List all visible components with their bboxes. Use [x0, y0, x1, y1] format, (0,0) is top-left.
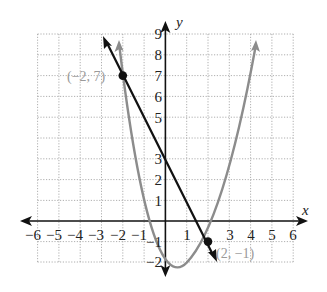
point-neg2-7: [119, 71, 128, 80]
svg-text:6: 6: [155, 89, 163, 105]
svg-text:−2: −2: [146, 254, 162, 270]
svg-text:9: 9: [155, 26, 163, 42]
line-arrow-up: [103, 36, 112, 49]
svg-text:−3: −3: [88, 227, 104, 243]
svg-text:−1: −1: [131, 227, 147, 243]
graph: y x −6 −5 −4 −3 −2 −1 1 3 4 5 6 9 8 7 6 …: [0, 0, 327, 292]
y-axis-label: y: [174, 14, 183, 30]
svg-text:−2: −2: [110, 227, 126, 243]
svg-text:8: 8: [155, 47, 163, 63]
svg-text:3: 3: [226, 227, 234, 243]
svg-text:−4: −4: [67, 227, 83, 243]
svg-text:−6: −6: [25, 227, 41, 243]
svg-text:4: 4: [247, 227, 255, 243]
point-label-2-neg1: (2, −1): [216, 246, 255, 262]
svg-text:−5: −5: [46, 227, 62, 243]
svg-text:3: 3: [155, 151, 163, 167]
svg-text:5: 5: [155, 110, 163, 126]
svg-text:−1: −1: [146, 234, 162, 250]
x-axis-label: x: [301, 202, 309, 218]
svg-text:7: 7: [155, 68, 163, 84]
point-2-neg1: [204, 237, 213, 246]
svg-text:1: 1: [183, 227, 191, 243]
point-label-neg2-7: (−2, 7): [67, 69, 106, 85]
svg-text:6: 6: [289, 227, 297, 243]
svg-text:1: 1: [155, 193, 163, 209]
axes: [20, 21, 308, 277]
svg-text:2: 2: [155, 172, 163, 188]
svg-text:5: 5: [268, 227, 276, 243]
